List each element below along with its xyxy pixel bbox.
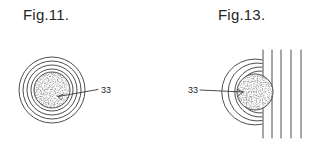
- fig-11-stippled-core: [32, 70, 72, 110]
- drawing-canvas: [0, 0, 315, 144]
- figure-fig-13-artwork: [200, 50, 301, 138]
- figure-fig-11-artwork: [19, 57, 98, 123]
- patent-drawing-sheet: Fig.11. Fig.13. 33 33: [0, 0, 315, 144]
